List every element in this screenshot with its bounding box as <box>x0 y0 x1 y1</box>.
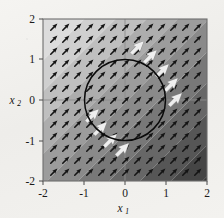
y-tick-label-3: 1 <box>29 53 35 65</box>
y-axis-ticks <box>39 19 43 181</box>
y-axis-title-letter: x <box>8 94 15 106</box>
y-tick-label-2: 0 <box>29 94 35 106</box>
x-tick-label-3: 1 <box>163 187 169 199</box>
y-tick-label-4: 2 <box>29 13 35 25</box>
y-tick-label-1: -1 <box>25 135 35 147</box>
vector-field-plot: -2 -1 0 1 2 2 1 0 -1 -2 x 1 x 2 <box>0 0 224 218</box>
x-tick-label-1: -1 <box>79 187 89 199</box>
x-axis-title-letter: x <box>116 202 123 214</box>
x-tick-label-0: -2 <box>38 187 48 199</box>
x-axis-title-subscript: 1 <box>125 207 129 216</box>
y-tick-label-0: -2 <box>25 175 35 187</box>
x-axis-title: x 1 <box>116 202 128 216</box>
x-axis-ticks <box>43 181 207 185</box>
figure-container: -2 -1 0 1 2 2 1 0 -1 -2 x 1 x 2 <box>0 0 224 218</box>
y-axis-title: x 2 <box>8 94 21 108</box>
x-tick-label-2: 0 <box>122 187 128 199</box>
y-axis-title-subscript: 2 <box>17 99 21 108</box>
x-tick-label-4: 2 <box>204 187 210 199</box>
